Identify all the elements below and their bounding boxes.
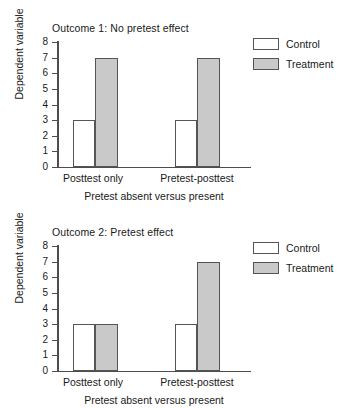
- chart-panel-outcome-1: Outcome 1: No pretest effect Dependent v…: [0, 0, 348, 204]
- legend-item-treatment[interactable]: Treatment: [253, 56, 333, 71]
- y-tick-mark-0: [52, 167, 58, 168]
- chart-title: Outcome 2: Pretest effect: [52, 226, 173, 238]
- y-tick-label-7: 7: [34, 53, 48, 63]
- chart-title: Outcome 1: No pretest effect: [52, 22, 189, 34]
- legend-item-control[interactable]: Control: [253, 240, 333, 255]
- legend-swatch-control-icon: [253, 242, 279, 254]
- bar-pretest-posttest-treatment[interactable]: [197, 58, 220, 167]
- bar-posttest-only-control[interactable]: [73, 324, 95, 371]
- y-axis-label: Dependent variable: [13, 203, 25, 313]
- legend-swatch-control-icon: [253, 38, 279, 50]
- y-tick-label-1: 1: [34, 146, 48, 156]
- bar-pretest-posttest-treatment[interactable]: [197, 262, 220, 371]
- legend-swatch-treatment-icon: [253, 262, 279, 274]
- bar-posttest-only-control[interactable]: [73, 120, 95, 167]
- legend-label-control: Control: [286, 242, 320, 254]
- y-tick-label-2: 2: [34, 131, 48, 141]
- x-axis-label: Pretest absent versus present: [58, 394, 250, 406]
- legend-swatch-treatment-icon: [253, 58, 279, 70]
- y-tick-label-7: 7: [34, 257, 48, 267]
- x-tick-label-pretest-posttest: Pretest-posttest: [137, 376, 257, 388]
- y-tick-label-5: 5: [34, 84, 48, 94]
- y-tick-label-3: 3: [34, 319, 48, 329]
- bar-pretest-posttest-control[interactable]: [175, 120, 197, 167]
- figure-container: Outcome 1: No pretest effect Dependent v…: [0, 0, 348, 408]
- bar-posttest-only-treatment[interactable]: [95, 324, 118, 371]
- bar-posttest-only-treatment[interactable]: [95, 58, 118, 167]
- legend-item-treatment[interactable]: Treatment: [253, 260, 333, 275]
- y-tick-label-6: 6: [34, 272, 48, 282]
- y-tick-label-8: 8: [34, 241, 48, 251]
- y-tick-mark-0: [52, 371, 58, 372]
- plot-area: [58, 42, 250, 167]
- x-axis-label: Pretest absent versus present: [58, 190, 250, 202]
- y-tick-label-8: 8: [34, 37, 48, 47]
- y-tick-label-0: 0: [34, 162, 48, 172]
- plot-area: [58, 246, 250, 371]
- x-tick-label-posttest-only: Posttest only: [33, 172, 153, 184]
- x-tick-label-posttest-only: Posttest only: [33, 376, 153, 388]
- legend: Control Treatment: [253, 240, 333, 280]
- y-tick-label-5: 5: [34, 288, 48, 298]
- y-tick-label-3: 3: [34, 115, 48, 125]
- x-tick-label-pretest-posttest: Pretest-posttest: [137, 172, 257, 184]
- chart-panel-outcome-2: Outcome 2: Pretest effect Dependent vari…: [0, 204, 348, 408]
- y-tick-label-4: 4: [34, 304, 48, 314]
- legend-item-control[interactable]: Control: [253, 36, 333, 51]
- legend-label-treatment: Treatment: [286, 58, 333, 70]
- y-axis-label: Dependent variable: [13, 0, 25, 109]
- legend: Control Treatment: [253, 36, 333, 76]
- y-tick-label-1: 1: [34, 350, 48, 360]
- legend-label-control: Control: [286, 38, 320, 50]
- y-tick-label-0: 0: [34, 366, 48, 376]
- legend-label-treatment: Treatment: [286, 262, 333, 274]
- y-tick-label-6: 6: [34, 68, 48, 78]
- bar-pretest-posttest-control[interactable]: [175, 324, 197, 371]
- y-tick-label-2: 2: [34, 335, 48, 345]
- y-tick-label-4: 4: [34, 100, 48, 110]
